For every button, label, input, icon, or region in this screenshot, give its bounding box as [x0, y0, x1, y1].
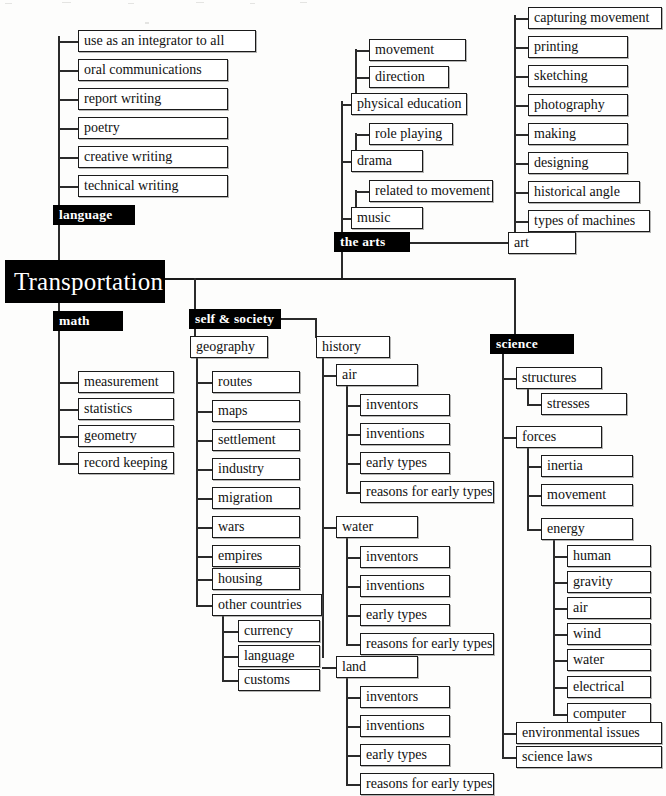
connector-air-child: [346, 492, 360, 494]
node-science-laws[interactable]: science laws: [516, 746, 662, 768]
node-water-inventions[interactable]: inventions: [360, 575, 450, 597]
category-language[interactable]: language: [53, 205, 135, 225]
connector-structures-child: [527, 404, 541, 406]
node-empires[interactable]: empires: [212, 545, 300, 567]
node-energy-gravity[interactable]: gravity: [567, 571, 651, 593]
node-drama[interactable]: drama: [351, 150, 423, 172]
node-photography[interactable]: photography: [528, 94, 628, 116]
node-direction[interactable]: direction: [369, 66, 449, 88]
connector-structures-spine: [527, 389, 529, 405]
connector-water-child: [346, 557, 360, 559]
node-energy-water[interactable]: water: [567, 649, 651, 671]
scan-speckle: [300, 2, 307, 3]
category-the-arts[interactable]: the arts: [334, 232, 410, 252]
node-geography[interactable]: geography: [190, 336, 268, 358]
node-creative-writing[interactable]: creative writing: [78, 146, 228, 168]
node-types-of-machines[interactable]: types of machines: [528, 210, 650, 232]
connector-language-child: [58, 186, 78, 188]
connector-language-spine: [58, 36, 60, 216]
node-land-early-types[interactable]: early types: [360, 744, 450, 766]
connector-math-child: [58, 463, 78, 465]
node-energy-wind[interactable]: wind: [567, 623, 651, 645]
node-air-history[interactable]: air: [336, 364, 418, 386]
node-movement-arts[interactable]: movement: [369, 39, 466, 61]
connector-other-countries-child: [222, 680, 238, 682]
node-oral-communications[interactable]: oral communications: [78, 59, 228, 81]
connector-selfsociety-to-history: [281, 318, 316, 320]
connector-forces-child: [527, 495, 541, 497]
node-language-custom[interactable]: language: [238, 645, 320, 667]
node-historical-angle[interactable]: historical angle: [528, 181, 640, 203]
connector-geography-child: [196, 440, 212, 442]
node-poetry[interactable]: poetry: [78, 117, 228, 139]
connector-air-child: [346, 434, 360, 436]
node-industry[interactable]: industry: [212, 458, 300, 480]
node-air-early-types[interactable]: early types: [360, 452, 450, 474]
connector-art-child: [514, 221, 528, 223]
node-maps[interactable]: maps: [212, 400, 300, 422]
category-science[interactable]: science: [490, 334, 574, 354]
node-wars[interactable]: wars: [212, 516, 300, 538]
node-settlement[interactable]: settlement: [212, 429, 300, 451]
node-sketching[interactable]: sketching: [528, 65, 628, 87]
connector-main-trunk: [165, 278, 515, 280]
node-measurement[interactable]: measurement: [78, 371, 174, 393]
node-making[interactable]: making: [528, 123, 628, 145]
node-land-inventors[interactable]: inventors: [360, 686, 450, 708]
node-energy-electrical[interactable]: electrical: [567, 676, 651, 698]
node-currency[interactable]: currency: [238, 620, 320, 642]
connector-arts-spine: [341, 101, 343, 232]
node-printing[interactable]: printing: [528, 36, 628, 58]
node-role-playing[interactable]: role playing: [369, 123, 453, 145]
connector-land-child: [346, 755, 360, 757]
node-designing[interactable]: designing: [528, 152, 628, 174]
node-structures[interactable]: structures: [516, 367, 602, 389]
node-report-writing[interactable]: report writing: [78, 88, 228, 110]
node-inertia[interactable]: inertia: [541, 455, 633, 477]
node-air-inventors[interactable]: inventors: [360, 394, 450, 416]
node-migration[interactable]: migration: [212, 487, 300, 509]
node-statistics[interactable]: statistics: [78, 398, 174, 420]
connector-geography-child: [196, 469, 212, 471]
node-water-inventors[interactable]: inventors: [360, 546, 450, 568]
node-geometry[interactable]: geometry: [78, 425, 174, 447]
node-music[interactable]: music: [351, 207, 423, 229]
node-art[interactable]: art: [508, 232, 576, 254]
node-customs[interactable]: customs: [238, 669, 320, 691]
node-air-reasons-for-early-types[interactable]: reasons for early types: [360, 481, 494, 503]
connector-other-countries-child: [222, 656, 238, 658]
node-history[interactable]: history: [316, 336, 390, 358]
node-use-as-an-integrator-to-all[interactable]: use as an integrator to all: [78, 30, 256, 52]
node-energy[interactable]: energy: [541, 518, 633, 540]
root-node-transportation[interactable]: Transportation: [5, 260, 165, 303]
node-land-inventions[interactable]: inventions: [360, 715, 450, 737]
connector-energy-child: [553, 714, 567, 716]
node-stresses[interactable]: stresses: [541, 393, 627, 415]
node-land-reasons-for-early-types[interactable]: reasons for early types: [360, 773, 494, 795]
node-routes[interactable]: routes: [212, 371, 300, 393]
node-water-early-types[interactable]: early types: [360, 604, 450, 626]
connector-science-laws: [502, 757, 516, 759]
node-physical-education[interactable]: physical education: [351, 93, 467, 115]
node-housing[interactable]: housing: [212, 568, 300, 590]
connector-selfsociety-to-history-drop: [315, 318, 317, 338]
node-other-countries[interactable]: other countries: [212, 594, 322, 616]
connector-geography-spine: [196, 358, 198, 606]
node-water-history[interactable]: water: [336, 516, 418, 538]
node-technical-writing[interactable]: technical writing: [78, 175, 228, 197]
node-air-inventions[interactable]: inventions: [360, 423, 450, 445]
node-forces[interactable]: forces: [516, 426, 602, 448]
category-math[interactable]: math: [53, 311, 123, 331]
node-movement-science[interactable]: movement: [541, 484, 633, 506]
category-self-and-society[interactable]: self & society: [189, 309, 281, 329]
node-environmental-issues[interactable]: environmental issues: [516, 722, 662, 744]
node-energy-air[interactable]: air: [567, 597, 651, 619]
node-energy-human[interactable]: human: [567, 545, 651, 567]
node-capturing-movement[interactable]: capturing movement: [528, 7, 662, 29]
node-water-reasons-for-early-types[interactable]: reasons for early types: [360, 633, 494, 655]
node-land-history[interactable]: land: [336, 656, 418, 678]
node-related-to-movement[interactable]: related to movement: [369, 180, 493, 202]
connector-geography-child: [196, 382, 212, 384]
node-record-keeping[interactable]: record keeping: [78, 452, 174, 474]
connector-air-child: [346, 405, 360, 407]
